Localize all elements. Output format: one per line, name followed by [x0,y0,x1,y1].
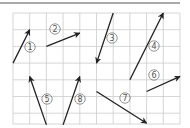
vector-label-7: 7 [122,94,127,103]
vector-label-3: 3 [109,34,114,43]
vector-label-1: 1 [27,43,32,52]
vector-label-2: 2 [52,25,57,34]
vector-label-4: 4 [151,42,156,51]
vector-labels: 12345678 [25,24,159,104]
vector-label-5: 5 [44,95,49,104]
vector-diagram: 12345678 [0,0,190,128]
vector-label-6: 6 [151,71,156,80]
vector-label-8: 8 [77,95,82,104]
